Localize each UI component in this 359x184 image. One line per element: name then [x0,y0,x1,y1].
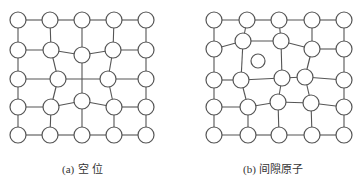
atom-circle [235,33,251,49]
atom-circle [304,12,320,28]
atom-circle [233,72,249,88]
atom-circle [10,99,26,115]
atom-circle [240,127,256,143]
atom-circle [10,42,26,58]
atom-circle [106,12,122,28]
atom-circle [336,99,352,115]
atom-circle [206,99,222,115]
atom-circle [138,99,154,115]
caption-vacancy: (a) 空 位 [62,160,103,176]
atom-circle [240,99,256,115]
atom-circle [274,70,290,86]
interstitial-lattice-panel [206,12,352,143]
atom-circle [10,127,26,143]
atom-circle [138,71,154,87]
atom-circle [100,71,116,87]
atom-circle [138,42,154,58]
caption-label-b: (b) [243,163,256,175]
atom-circle [10,71,26,87]
atom-circle [336,12,352,28]
atom-circle [336,72,352,88]
atom-circle [10,12,26,28]
atom-circle [206,72,222,88]
atom-circle [239,12,255,28]
caption-text-b: 间隙原子 [259,163,303,176]
atom-circle [271,12,287,28]
atom-circle [206,12,222,28]
atom-circle [74,47,90,63]
atom-circle [270,94,286,110]
atom-circle [303,95,319,111]
atom-circle [304,41,320,57]
atom-circle [50,71,66,87]
atom-circle [206,127,222,143]
caption-interstitial: (b) 间隙原子 [243,160,303,176]
atom-circle [43,42,59,58]
atom-circle [42,127,58,143]
atom-circle [273,33,289,49]
atom-circle [138,127,154,143]
atom-circle [106,127,122,143]
atom-circle [336,127,352,143]
atom-circle [42,12,58,28]
atom-circle [74,12,90,28]
atom-circle [138,12,154,28]
atom-circle [105,42,121,58]
atom-circle [106,99,122,115]
atom-circle [74,127,90,143]
interstitial-atom [251,54,265,68]
atom-circle [206,41,222,57]
caption-text-a: 空 位 [78,163,104,176]
caption-label-a: (a) [62,163,74,175]
atom-circle [336,41,352,57]
atom-circle [297,69,313,85]
vacancy-lattice-panel [10,12,154,143]
atom-circle [43,99,59,115]
atom-circle [74,93,90,109]
crystal-defect-diagram [0,0,359,184]
atom-circle [271,127,287,143]
atom-circle [304,127,320,143]
